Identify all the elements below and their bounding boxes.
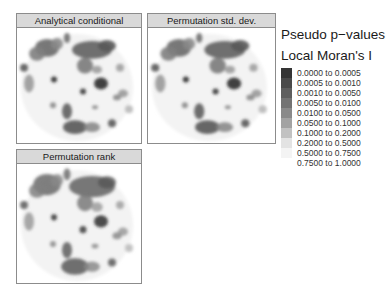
legend-swatch: [281, 138, 292, 148]
legend-items: 0.0000 to 0.00050.0005 to 0.00100.0010 t…: [281, 68, 385, 168]
legend-item: 0.1000 to 0.2000: [281, 128, 385, 138]
legend-swatch: [281, 148, 292, 158]
legend-swatch: [281, 118, 292, 128]
map-panel-1: Analytical conditional: [16, 13, 142, 144]
legend-label: 0.5000 to 0.7500: [297, 148, 361, 158]
legend-swatch: [281, 108, 292, 118]
legend-swatch: [281, 88, 292, 98]
legend-label: 0.0500 to 0.1000: [297, 118, 361, 128]
panel-title: Permutation rank: [17, 150, 141, 164]
legend-item: 0.0005 to 0.0010: [281, 78, 385, 88]
legend-label: 0.0000 to 0.0005: [297, 68, 361, 78]
legend-swatch: [281, 128, 292, 138]
legend-swatch: [281, 68, 292, 78]
map-panel-3: Permutation rank: [16, 149, 142, 284]
map-panel-2: Permutation std. dev.: [147, 13, 276, 144]
legend-item: 0.7500 to 1.0000: [281, 158, 385, 168]
legend-item: 0.0050 to 0.0100: [281, 98, 385, 108]
legend-item: 0.2000 to 0.5000: [281, 138, 385, 148]
legend-label: 0.2000 to 0.5000: [297, 138, 361, 148]
legend-label: 0.0005 to 0.0010: [297, 78, 361, 88]
choropleth-map: [17, 28, 141, 143]
panel-title: Permutation std. dev.: [148, 14, 275, 28]
legend-swatch: [281, 78, 292, 88]
legend-item: 0.0100 to 0.0500: [281, 108, 385, 118]
legend-subtitle: Local Moran's I: [281, 47, 385, 64]
legend-item: 0.0000 to 0.0005: [281, 68, 385, 78]
choropleth-map: [148, 28, 275, 143]
legend-swatch: [281, 158, 292, 168]
legend-item: 0.5000 to 0.7500: [281, 148, 385, 158]
legend: Pseudo p−values Local Moran's I 0.0000 t…: [281, 26, 385, 168]
legend-label: 0.1000 to 0.2000: [297, 128, 361, 138]
legend-label: 0.0100 to 0.0500: [297, 108, 361, 118]
legend-item: 0.0500 to 0.1000: [281, 118, 385, 128]
legend-label: 0.0050 to 0.0100: [297, 98, 361, 108]
legend-title: Pseudo p−values: [281, 26, 385, 43]
legend-label: 0.7500 to 1.0000: [297, 158, 361, 168]
choropleth-map: [17, 164, 141, 283]
legend-swatch: [281, 98, 292, 108]
legend-item: 0.0010 to 0.0050: [281, 88, 385, 98]
legend-label: 0.0010 to 0.0050: [297, 88, 361, 98]
panel-title: Analytical conditional: [17, 14, 141, 28]
